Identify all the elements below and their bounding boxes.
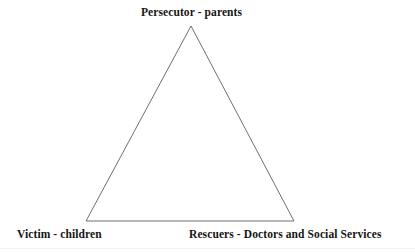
node-label-persecutor: Persecutor - parents	[0, 6, 383, 19]
node-label-rescuers: Rescuers - Doctors and Social Services	[189, 228, 382, 241]
page-bottom-divider	[0, 248, 415, 249]
diagram-canvas: Persecutor - parents Victim - children R…	[0, 0, 415, 252]
triangle-outline	[86, 26, 294, 221]
node-label-victim: Victim - children	[17, 228, 102, 241]
triangle-shape	[0, 0, 415, 252]
